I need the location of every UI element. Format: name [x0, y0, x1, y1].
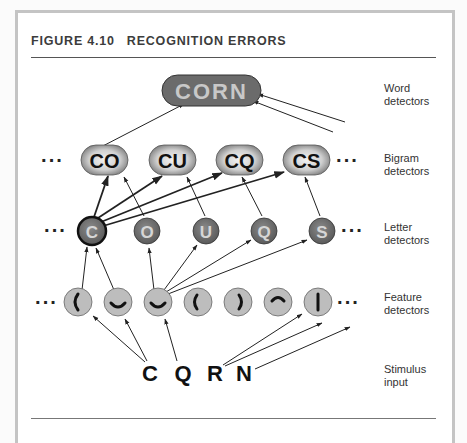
bigram-detectors: ··· CO CU CQ CS ···	[41, 145, 359, 175]
stimulus-input: C Q R N	[142, 361, 252, 386]
svg-text:U: U	[200, 223, 212, 242]
feature-detector-top-curve	[264, 288, 292, 316]
svg-text:CS: CS	[293, 150, 321, 172]
svg-text:CQ: CQ	[225, 150, 255, 172]
feature-detector-vertical-line	[304, 288, 332, 316]
stimulus-letter: Q	[174, 361, 191, 386]
letter-detector-o: O	[134, 218, 160, 244]
svg-text:CO: CO	[90, 150, 120, 172]
label-feature-detectors: Feature detectors	[384, 291, 429, 317]
word-detector-label: CORN	[175, 79, 248, 104]
bigram-detector-co: CO	[81, 145, 128, 175]
feature-detector-left-curve	[184, 288, 212, 316]
svg-text:CU: CU	[158, 150, 187, 172]
bottom-rule	[31, 418, 436, 419]
bigram-detector-cs: CS	[283, 145, 330, 175]
ellipsis-right: ···	[341, 219, 364, 241]
stimulus-letter: R	[207, 361, 223, 386]
ellipsis-right: ···	[337, 291, 360, 313]
bigram-detector-cq: CQ	[216, 145, 263, 175]
label-stimulus-input: Stimulus input	[384, 363, 426, 389]
feature-detectors: ··· ···	[35, 288, 360, 316]
svg-text:S: S	[316, 223, 327, 242]
letter-detector-s: S	[309, 218, 335, 244]
letter-detector-u: U	[193, 218, 219, 244]
letter-detector-c-highlighted: C	[78, 217, 106, 245]
ellipsis-left: ···	[44, 219, 67, 241]
stimulus-letter: N	[236, 361, 252, 386]
stimulus-letter: C	[142, 361, 158, 386]
svg-text:Q: Q	[257, 223, 270, 242]
ellipsis-left: ···	[41, 149, 64, 171]
label-letter-detectors: Letter detectors	[384, 221, 429, 247]
ellipsis-left: ···	[35, 291, 58, 313]
feature-to-letter-arrows	[82, 240, 307, 294]
label-bigram-detectors: Bigram detectors	[384, 152, 429, 178]
ellipsis-right: ···	[336, 149, 359, 171]
feature-detector-bottom-curve	[104, 288, 132, 316]
feature-detector-left-curve	[64, 288, 92, 316]
feature-detector-right-curve	[224, 288, 252, 316]
letter-detectors: ··· C O U Q S ···	[44, 217, 364, 245]
svg-text:O: O	[140, 223, 153, 242]
word-detector-corn: CORN	[162, 75, 261, 106]
bigram-detector-cu: CU	[149, 145, 196, 175]
letter-detector-q: Q	[251, 218, 277, 244]
svg-text:C: C	[86, 223, 98, 242]
label-word-detectors: Word detectors	[384, 82, 429, 108]
feature-detector-bottom-curve	[144, 288, 172, 316]
